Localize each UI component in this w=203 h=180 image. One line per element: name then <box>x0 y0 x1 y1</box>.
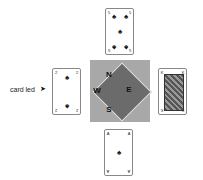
card-east[interactable]: K K K K <box>158 68 187 115</box>
direction-south: S <box>104 105 114 114</box>
card-rank: A <box>127 132 131 136</box>
direction-north: N <box>104 70 114 79</box>
card-north[interactable]: 5 5 5 5 ♠ ♠ ♠ ♠ ♠ <box>105 8 134 55</box>
arrow-right-icon: ➤ <box>40 85 46 93</box>
card-west[interactable]: 2 2 2 2 ♠ ♠ <box>52 68 81 115</box>
spade-icon: ♠ <box>122 13 130 21</box>
direction-west: W <box>92 86 102 95</box>
king-face-image <box>164 74 184 111</box>
card-rank: A <box>106 169 110 173</box>
spade-icon: ♠ <box>63 74 71 82</box>
card-rank: 2 <box>75 71 79 75</box>
spade-icon: ♠ <box>110 43 118 51</box>
spade-icon: ♠ <box>116 28 124 36</box>
direction-east: E <box>124 85 134 94</box>
card-rank: 2 <box>54 108 58 112</box>
card-rank: 2 <box>75 108 79 112</box>
spade-icon: ♠ <box>110 13 118 21</box>
card-south[interactable]: A A A A ♠ <box>104 129 133 176</box>
card-led-label: card led <box>10 86 35 93</box>
spade-icon: ♠ <box>122 43 130 51</box>
spade-icon: ♠ <box>115 149 123 157</box>
spade-icon: ♠ <box>63 102 71 110</box>
card-rank: A <box>127 169 131 173</box>
card-rank: A <box>106 132 110 136</box>
card-rank: 2 <box>54 71 58 75</box>
